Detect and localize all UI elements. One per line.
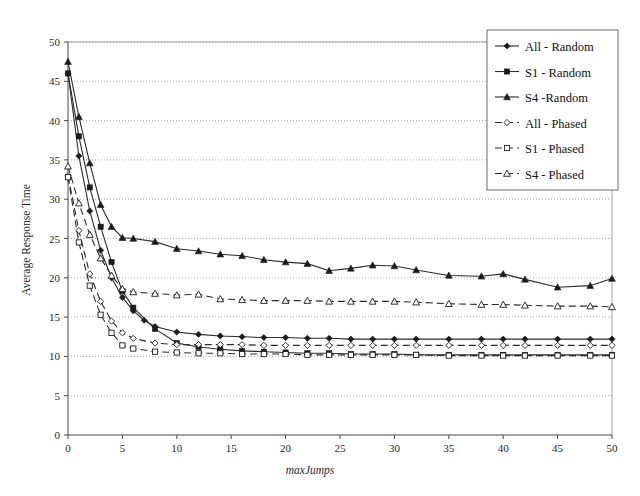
marker-filled-square <box>109 259 114 264</box>
y-tick-label: 45 <box>49 75 61 87</box>
marker-hollow-square <box>152 349 157 354</box>
marker-hollow-square <box>522 353 527 358</box>
marker-hollow-square <box>283 351 288 356</box>
y-tick-label: 35 <box>49 154 61 166</box>
line-chart: 05101520253035404550 0510152025303540455… <box>0 0 640 496</box>
marker-hollow-square <box>414 352 419 357</box>
marker-hollow-square <box>109 330 114 335</box>
marker-hollow-square <box>120 343 125 348</box>
x-tick-label: 35 <box>443 442 455 454</box>
marker-filled-square <box>152 326 157 331</box>
marker-hollow-square <box>131 346 136 351</box>
x-tick-label: 45 <box>552 442 564 454</box>
marker-hollow-square <box>239 351 244 356</box>
y-tick-label: 0 <box>55 429 61 441</box>
x-tick-label: 30 <box>389 442 401 454</box>
marker-filled-square <box>131 305 136 310</box>
y-tick-label: 15 <box>49 311 61 323</box>
y-tick-label: 25 <box>49 233 61 245</box>
x-tick-label: 40 <box>498 442 510 454</box>
marker-hollow-square <box>196 351 201 356</box>
marker-hollow-square <box>327 352 332 357</box>
legend-label-0: All - Random <box>525 40 594 54</box>
legend-label-2: S4 -Random <box>525 91 588 105</box>
marker-hollow-square <box>555 353 560 358</box>
marker-hollow-square <box>588 353 593 358</box>
x-tick-label: 0 <box>65 442 71 454</box>
legend-label-4: S1 - Phased <box>525 142 585 156</box>
legend-label-3: All - Phased <box>525 117 588 131</box>
x-tick-label: 5 <box>120 442 126 454</box>
marker-hollow-square <box>504 145 509 150</box>
x-tick-label: 20 <box>280 442 292 454</box>
marker-filled-square <box>76 134 81 139</box>
chart-legend: All - RandomS1 - RandomS4 -RandomAll - P… <box>487 30 618 190</box>
marker-hollow-square <box>261 351 266 356</box>
marker-hollow-square <box>501 353 506 358</box>
marker-filled-square <box>98 224 103 229</box>
marker-hollow-square <box>98 312 103 317</box>
y-tick-label: 5 <box>55 390 61 402</box>
y-tick-label: 40 <box>49 115 61 127</box>
marker-hollow-square <box>87 283 92 288</box>
legend-box <box>487 30 618 190</box>
chart-figure: 05101520253035404550 0510152025303540455… <box>0 0 640 496</box>
marker-filled-square <box>87 185 92 190</box>
marker-hollow-square <box>65 175 70 180</box>
y-axis-title: Average Response Time <box>20 184 33 296</box>
marker-hollow-square <box>174 350 179 355</box>
marker-hollow-square <box>348 352 353 357</box>
marker-hollow-square <box>305 352 310 357</box>
x-tick-label: 10 <box>171 442 183 454</box>
x-axis-title: maxJumps <box>286 464 335 477</box>
x-tick-label: 25 <box>335 442 347 454</box>
y-tick-label: 10 <box>49 350 61 362</box>
legend-label-1: S1 - Random <box>525 66 591 80</box>
y-tick-label: 30 <box>49 193 61 205</box>
marker-hollow-square <box>392 352 397 357</box>
marker-hollow-square <box>609 353 614 358</box>
marker-hollow-square <box>76 240 81 245</box>
marker-hollow-square <box>446 353 451 358</box>
marker-filled-square <box>504 69 509 74</box>
y-tick-label: 50 <box>49 36 61 48</box>
y-tick-label: 20 <box>49 272 61 284</box>
legend-label-5: S4 - Phased <box>525 168 585 182</box>
marker-hollow-square <box>218 351 223 356</box>
x-tick-label: 50 <box>607 442 619 454</box>
x-tick-label: 15 <box>226 442 238 454</box>
marker-hollow-square <box>370 352 375 357</box>
marker-hollow-square <box>479 353 484 358</box>
